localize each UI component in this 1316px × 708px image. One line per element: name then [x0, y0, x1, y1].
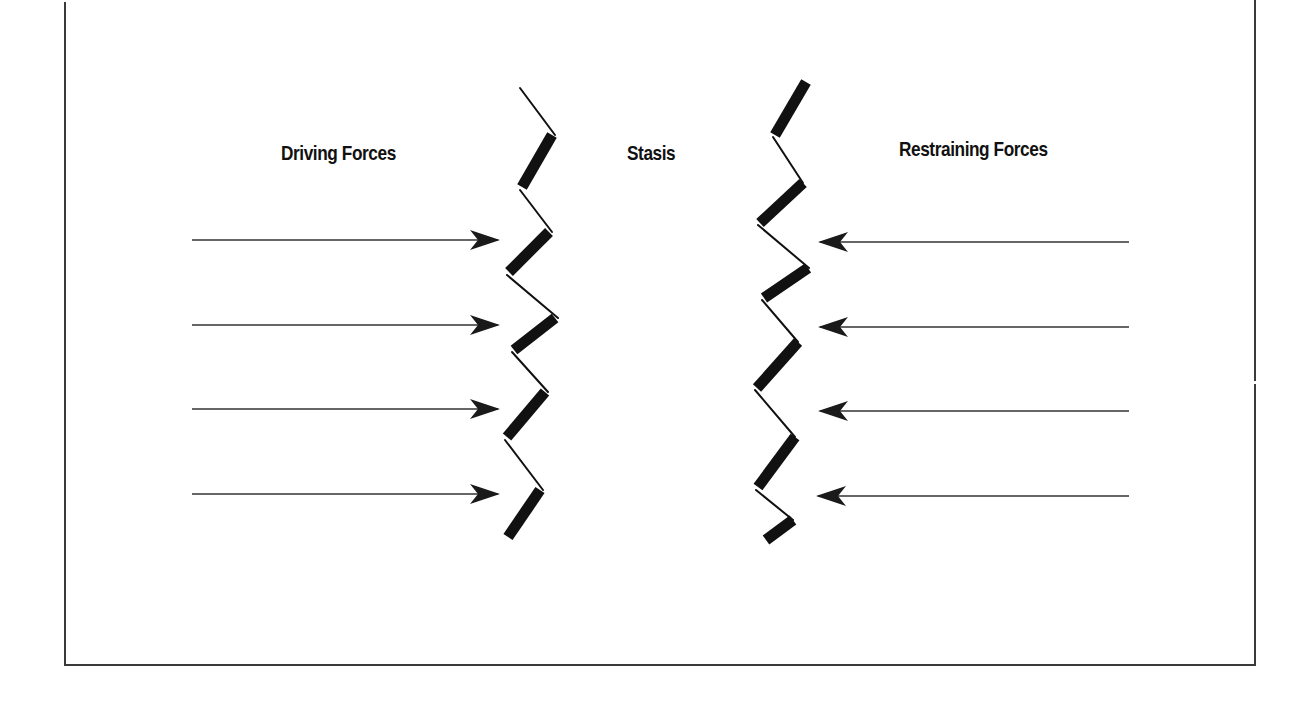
left-barrier-zigzag [505, 88, 558, 537]
restraining-force-arrows [818, 242, 1129, 496]
right-barrier-zigzag [755, 82, 809, 540]
driving-force-arrows [192, 240, 498, 494]
frame-gap [1254, 381, 1258, 384]
force-field-diagram [0, 0, 1316, 708]
